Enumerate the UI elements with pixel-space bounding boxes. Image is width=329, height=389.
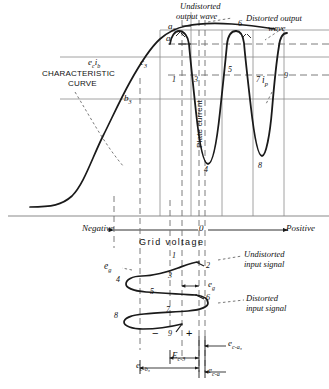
point-b3-label: b3 xyxy=(124,94,132,105)
point-c3-label: c3 xyxy=(140,58,147,69)
distorted-output-wave xyxy=(236,31,287,156)
wave-point-8: 8 xyxy=(258,162,262,170)
input-point-7: 7 xyxy=(166,306,170,314)
polarity-minus: − xyxy=(152,328,158,340)
figure-canvas: Undistorted output wave Distorted output… xyxy=(0,0,329,389)
undistorted-input-signal-wave xyxy=(126,262,199,295)
input-point-9: 9 xyxy=(168,330,172,338)
wave-point-7: 7 xyxy=(256,76,260,84)
input-wave-connectors xyxy=(176,262,204,332)
wave-point-3: 3 xyxy=(194,76,198,84)
diagram-svg xyxy=(0,0,329,389)
distorted-input-label-line2: input signal xyxy=(246,304,286,313)
input-point-2: 2 xyxy=(206,262,210,270)
wave-point-6: 6 xyxy=(238,20,242,28)
characteristic-curve xyxy=(30,23,275,207)
ec-ib-label: ecib xyxy=(88,58,100,69)
Ec3-bias-label: Ec-3 xyxy=(172,351,185,362)
origin-label: 0 xyxy=(199,224,204,233)
input-point-6: 6 xyxy=(206,294,210,302)
wave-point-9: 9 xyxy=(284,72,288,80)
input-point-3: 3 xyxy=(168,272,172,280)
wave-point-1: 1 xyxy=(172,76,176,84)
eg-label: eg xyxy=(104,262,111,274)
undistorted-output-label-line2: output wave xyxy=(176,12,217,21)
characteristic-curve-leader xyxy=(75,92,124,167)
input-point-8: 8 xyxy=(114,312,118,320)
ip-label: ip xyxy=(262,76,268,88)
wave-point-5: 5 xyxy=(228,66,232,74)
positive-axis-label: Positive xyxy=(286,224,315,233)
characteristic-curve-label-line2: CURVE xyxy=(68,80,97,88)
wave-point-4: 4 xyxy=(204,166,208,174)
characteristic-curve-label-line1: CHARACTERISTIC xyxy=(42,70,115,78)
ig-label: eg xyxy=(208,280,215,291)
vertical-gridlines xyxy=(160,12,284,216)
ec-a-bias-label: ec-a xyxy=(208,366,220,377)
ec-a3-bias-label: ec-a₃ xyxy=(228,339,242,350)
undistorted-input-label-line2: input signal xyxy=(244,260,284,269)
point-a3-label: a3 xyxy=(168,22,176,33)
horizontal-gridlines xyxy=(60,30,329,99)
undistorted-input-label-line1: Undistorted xyxy=(244,250,285,259)
input-point-1: 1 xyxy=(172,252,176,260)
input-point-5: 5 xyxy=(150,288,154,296)
ec-b3-bias-label: ec-b₃ xyxy=(136,361,150,372)
distorted-output-label-line1: Distorted output xyxy=(246,14,302,23)
polarity-plus: + xyxy=(186,328,192,340)
negative-axis-label: Negative xyxy=(82,224,114,233)
distorted-input-label-line1: Distorted xyxy=(246,294,278,303)
input-point-4: 4 xyxy=(116,276,120,284)
plate-current-axis-label: Plate current xyxy=(196,100,204,148)
distorted-output-label-line2: wave xyxy=(268,24,285,33)
point-a-label: a xyxy=(166,34,171,43)
undistorted-output-label-line1: Undistorted xyxy=(180,2,221,11)
grid-voltage-axis-label: Grid voltage xyxy=(139,238,204,247)
